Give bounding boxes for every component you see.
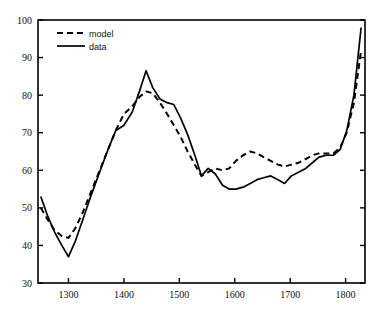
chart-legend: modeldata (57, 29, 114, 52)
series-line-model (41, 50, 361, 238)
legend-label-data: data (89, 42, 107, 52)
y-tick-label: 30 (22, 278, 32, 289)
x-tick-label: 1700 (280, 289, 300, 300)
y-axis-ticks (38, 20, 365, 283)
y-tick-label: 80 (22, 90, 32, 101)
x-axis-tick-labels: 130014001500160017001800 (58, 289, 355, 300)
y-tick-label: 40 (22, 240, 32, 251)
x-tick-label: 1600 (225, 289, 245, 300)
y-tick-label: 50 (22, 202, 32, 213)
series-line-data (41, 28, 361, 257)
x-tick-label: 1300 (58, 289, 78, 300)
line-chart: 130014001500160017001800 304050607080901… (0, 0, 376, 312)
axes-frame (38, 20, 365, 283)
data-series-group (41, 28, 361, 257)
y-tick-label: 90 (22, 52, 32, 63)
x-tick-label: 1800 (336, 289, 356, 300)
x-tick-label: 1400 (114, 289, 134, 300)
y-tick-label: 70 (22, 127, 32, 138)
y-tick-label: 100 (17, 15, 32, 26)
y-tick-label: 60 (22, 165, 32, 176)
y-axis-tick-labels: 30405060708090100 (17, 15, 32, 289)
chart-container: 130014001500160017001800 304050607080901… (0, 0, 376, 312)
x-tick-label: 1500 (169, 289, 189, 300)
legend-label-model: model (89, 29, 114, 39)
